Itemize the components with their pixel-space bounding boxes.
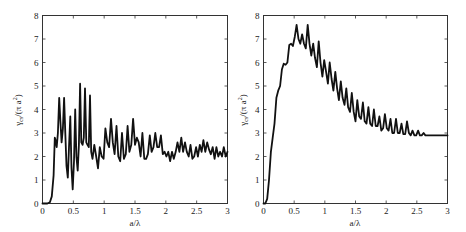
figure: 00.511.522.53 012345678 a/λ γcs/(π a2) 0…	[0, 0, 466, 232]
x-tick-label: 1	[323, 206, 328, 216]
x-tick-label: 2	[164, 206, 169, 216]
right-data-curve	[264, 25, 448, 204]
y-tick-label: 1	[34, 175, 39, 185]
right-y-ticks: 012345678	[255, 11, 448, 209]
y-tick-label: 3	[255, 128, 260, 138]
svg-text:γcs/(π a2): γcs/(π a2)	[237, 94, 249, 126]
y-tick-label: 2	[255, 152, 260, 162]
x-tick-label: 0	[40, 206, 45, 216]
x-tick-label: 1.5	[350, 206, 362, 216]
x-tick-label: 3	[445, 206, 450, 216]
y-tick-label: 0	[34, 199, 39, 209]
left-chart-panel: 00.511.522.53 012345678 a/λ γcs/(π a2)	[12, 11, 230, 229]
x-tick-label: 0	[261, 206, 266, 216]
x-tick-label: 2.5	[411, 206, 423, 216]
y-tick-label: 1	[255, 175, 260, 185]
y-tick-label: 7	[255, 34, 260, 44]
svg-text:γcs/(π a2): γcs/(π a2)	[12, 94, 24, 126]
y-tick-label: 6	[255, 58, 260, 68]
y-tick-label: 6	[34, 58, 39, 68]
x-tick-label: 3	[225, 206, 230, 216]
y-tick-label: 2	[34, 152, 39, 162]
x-tick-label: 2.5	[191, 206, 203, 216]
right-x-axis-label: a/λ	[350, 218, 361, 228]
y-tick-label: 7	[34, 34, 39, 44]
left-y-axis-label: γcs/(π a2)	[12, 94, 24, 126]
x-tick-label: 0.5	[289, 206, 301, 216]
x-tick-label: 0.5	[68, 206, 80, 216]
y-tick-label: 5	[255, 81, 260, 91]
y-tick-label: 8	[255, 11, 260, 21]
left-x-axis-label: a/λ	[130, 218, 141, 228]
left-data-curve	[43, 84, 228, 204]
right-y-axis-label: γcs/(π a2)	[237, 94, 249, 126]
x-tick-label: 1.5	[129, 206, 141, 216]
y-tick-label: 5	[34, 81, 39, 91]
y-tick-label: 4	[255, 105, 260, 115]
y-tick-label: 3	[34, 128, 39, 138]
left-plot-frame	[43, 16, 228, 204]
x-tick-label: 2	[384, 206, 389, 216]
y-tick-label: 8	[34, 11, 39, 21]
y-tick-label: 0	[255, 199, 260, 209]
y-tick-label: 4	[34, 105, 39, 115]
x-tick-label: 1	[102, 206, 107, 216]
left-x-ticks: 00.511.522.53	[40, 16, 230, 216]
right-chart-panel: 00.511.522.53 012345678 a/λ γcs/(π a2)	[237, 11, 450, 229]
